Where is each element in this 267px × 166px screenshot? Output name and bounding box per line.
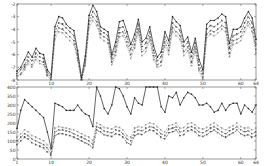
marker-dot: [77, 50, 79, 52]
y-tick-label: 400: [7, 85, 16, 90]
marker-dot: [164, 111, 166, 113]
marker-dot: [221, 102, 223, 104]
marker-dot: [172, 97, 174, 99]
marker-dot: [202, 69, 204, 71]
marker-dot: [149, 26, 151, 28]
marker-dot: [31, 106, 33, 108]
y-tick-label: 50: [10, 148, 16, 153]
marker-dot: [126, 31, 128, 33]
marker-dot: [202, 104, 204, 106]
marker-dot: [240, 113, 242, 115]
marker-dot: [43, 117, 45, 119]
marker-dot: [248, 11, 250, 13]
marker-dot: [141, 104, 143, 106]
marker-dot: [141, 41, 143, 43]
marker-dot: [35, 48, 37, 50]
marker-dot: [58, 16, 60, 18]
marker-dot: [84, 113, 86, 115]
marker-dot: [229, 42, 231, 44]
x-tick-label: 10: [48, 81, 54, 86]
marker-dot: [20, 110, 22, 112]
marker-dot: [24, 59, 26, 61]
x-tick-label: 40: [162, 81, 168, 86]
x-tick-label: 40: [162, 160, 168, 165]
marker-dot: [47, 131, 49, 133]
marker-dot: [191, 93, 193, 95]
bottom-line-chart: 050100150200250300350400110203040506064: [7, 85, 259, 166]
marker-dot: [229, 104, 231, 106]
marker-dot: [217, 17, 219, 19]
y-tick-label: 200: [7, 121, 16, 126]
marker-dot: [251, 17, 253, 19]
marker-dot: [149, 86, 151, 88]
marker-dot: [187, 36, 189, 38]
marker-dot: [111, 54, 113, 56]
marker-square: [115, 46, 116, 47]
marker-dot: [130, 44, 132, 46]
marker-dot: [66, 110, 68, 112]
marker-dot: [168, 40, 170, 42]
marker-dot: [35, 110, 37, 112]
marker-dot: [183, 41, 185, 43]
marker-dot: [138, 102, 140, 104]
marker-dot: [157, 56, 159, 58]
marker-dot: [236, 102, 238, 104]
plot-frame: [17, 87, 256, 159]
marker-dot: [103, 108, 105, 110]
marker-dot: [81, 77, 83, 79]
marker-dot: [107, 31, 109, 33]
marker-dot: [31, 56, 33, 58]
x-tick-label: 20: [86, 160, 92, 165]
marker-dot: [210, 20, 212, 22]
marker-dot: [122, 95, 124, 97]
marker-dot: [157, 86, 159, 88]
marker-dot: [119, 21, 121, 23]
x-tick-label: 60: [238, 81, 244, 86]
x-tick-label: 64: [253, 81, 259, 86]
marker-dot: [221, 13, 223, 15]
marker-dot: [198, 104, 200, 106]
marker-dot: [217, 110, 219, 112]
x-tick-label: 30: [124, 160, 130, 165]
marker-dot: [69, 27, 71, 29]
marker-dot: [92, 126, 94, 128]
marker-dot: [145, 86, 147, 88]
marker-dot: [43, 54, 45, 56]
marker-square: [210, 25, 211, 26]
marker-dot: [255, 39, 257, 41]
marker-dot: [73, 30, 75, 32]
top-line-chart: -2-3-4-5-6-7-8110203040506064: [11, 2, 259, 87]
marker-dot: [191, 51, 193, 53]
marker-dot: [62, 106, 64, 108]
marker-dot: [50, 74, 52, 76]
marker-dot: [107, 113, 109, 115]
marker-dot: [77, 104, 79, 106]
marker-dot: [47, 69, 49, 71]
marker-dot: [240, 26, 242, 28]
marker-dot: [88, 115, 90, 117]
marker-dot: [126, 106, 128, 108]
y-tick-label: -3: [11, 14, 16, 19]
marker-dot: [179, 104, 181, 106]
line-series-1: [17, 5, 256, 77]
marker-dot: [58, 104, 60, 106]
marker-dot: [130, 113, 132, 115]
x-tick-label: 10: [48, 160, 54, 165]
marker-dot: [100, 95, 102, 97]
marker-dot: [160, 51, 162, 53]
marker-dot: [213, 111, 215, 113]
marker-dot: [251, 111, 253, 113]
marker-dot: [225, 110, 227, 112]
marker-dot: [92, 4, 94, 6]
figure: -2-3-4-5-6-7-8110203040506064 0501001502…: [0, 0, 267, 166]
marker-dot: [134, 34, 136, 36]
x-tick-label: 20: [86, 81, 92, 86]
marker-dot: [232, 102, 234, 104]
marker-dot: [16, 128, 18, 130]
marker-dot: [153, 45, 155, 47]
marker-dot: [236, 29, 238, 31]
marker-dot: [179, 25, 181, 27]
marker-dot: [88, 15, 90, 17]
marker-dot: [73, 110, 75, 112]
marker-dot: [183, 97, 185, 99]
